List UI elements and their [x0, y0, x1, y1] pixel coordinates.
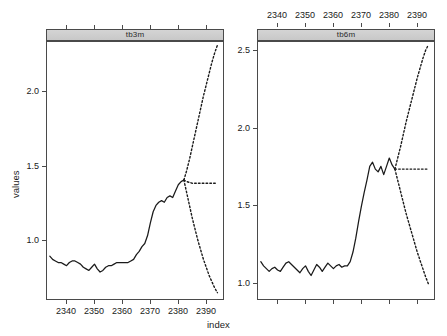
panel-strip-tb3m: tb3m: [46, 29, 224, 41]
panel-tb3m-plot: [47, 42, 223, 299]
x-tick-mark: [94, 300, 95, 304]
y-tick-mark: [42, 91, 46, 92]
x-tick-mark: [150, 300, 151, 304]
y-tick-label: 1.0: [14, 236, 39, 245]
y-tick-mark: [253, 205, 257, 206]
y-tick-label: 1.0: [225, 279, 250, 288]
x-tick-mark: [178, 300, 179, 304]
x-tick-label: 2390: [188, 307, 224, 316]
series-upper-interval-tb6m: [395, 45, 429, 169]
y-tick-label: 1.5: [225, 201, 250, 210]
x-tick-mark-top: [66, 25, 67, 29]
x-axis-title: index: [207, 320, 230, 330]
series-point-forecast-tb3m: [184, 180, 218, 183]
series-observed-tb6m: [261, 158, 395, 275]
y-tick-mark: [42, 240, 46, 241]
x-tick-mark: [305, 300, 306, 304]
x-tick-mark-top: [122, 25, 123, 29]
x-tick-mark-top: [178, 25, 179, 29]
x-tick-mark: [122, 300, 123, 304]
x-tick-mark-top: [417, 23, 418, 27]
x-tick-mark: [417, 300, 418, 304]
x-tick-mark: [361, 300, 362, 304]
y-tick-label: 2.5: [225, 46, 250, 55]
panel-tb3m: [46, 41, 224, 300]
panel-tb6m: [257, 41, 435, 300]
x-tick-mark-top: [277, 23, 278, 27]
x-tick-mark-top: [333, 23, 334, 27]
y-tick-mark: [42, 166, 46, 167]
y-tick-mark: [253, 128, 257, 129]
y-tick-label: 2.0: [225, 124, 250, 133]
x-tick-mark-top: [206, 25, 207, 29]
x-tick-mark-top: [150, 25, 151, 29]
x-tick-mark-top: [305, 23, 306, 27]
x-tick-mark: [389, 300, 390, 304]
panel-strip-label: tb6m: [337, 31, 356, 39]
panel-tb6m-plot: [258, 42, 434, 299]
x-tick-mark: [206, 300, 207, 304]
x-tick-label-top: 2390: [399, 11, 435, 20]
y-axis-title: values: [11, 171, 21, 198]
y-tick-mark: [253, 50, 257, 51]
series-lower-interval-tb3m: [184, 180, 218, 293]
series-upper-interval-tb3m: [184, 45, 218, 180]
y-tick-mark: [253, 283, 257, 284]
y-tick-label: 2.0: [14, 87, 39, 96]
x-tick-mark-top: [389, 23, 390, 27]
x-tick-mark-top: [361, 23, 362, 27]
series-lower-interval-tb6m: [395, 169, 429, 284]
x-tick-mark: [277, 300, 278, 304]
x-tick-mark: [66, 300, 67, 304]
forecast-figure: tb3m 1.0 1.5 2.0 2340: [0, 0, 447, 336]
series-observed-tb3m: [50, 180, 184, 272]
x-tick-mark-top: [94, 25, 95, 29]
panel-strip-tb6m: tb6m: [257, 29, 435, 41]
panel-strip-label: tb3m: [126, 31, 145, 39]
x-tick-mark: [333, 300, 334, 304]
